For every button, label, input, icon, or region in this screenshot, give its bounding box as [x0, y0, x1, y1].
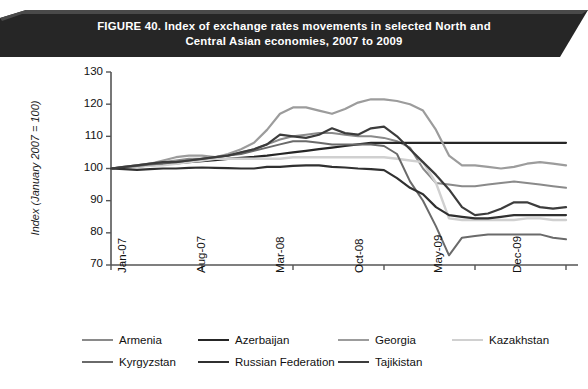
legend-item-azerbaijan[interactable]: Azerbaijan: [198, 330, 289, 350]
legend-swatch-icon: [338, 339, 369, 341]
legend-label: Kyrgyzstan: [119, 356, 176, 368]
series-line-armenia: [111, 133, 566, 188]
legend-item-kazakhstan[interactable]: Kazakhstan: [452, 330, 549, 350]
legend-row-1: ArmeniaAzerbaijanGeorgiaKazakhstan: [0, 330, 588, 350]
x-tick-label-oct-08: Oct-08: [353, 238, 365, 273]
legend-swatch-icon: [82, 339, 113, 341]
figure-title-banner: FIGURE 40. Index of exchange rates movem…: [0, 10, 588, 57]
legend-swatch-icon: [82, 361, 113, 363]
legend-label: Tajikistan: [375, 356, 422, 368]
legend-row-2: KyrgyzstanRussian FederationTajikistan: [0, 352, 588, 372]
legend-item-tajikistan[interactable]: Tajikistan: [338, 352, 422, 372]
series-lines: [111, 99, 566, 255]
x-tick-label-may-09: May-09: [432, 235, 444, 273]
y-tick-label-70: 70: [75, 257, 103, 269]
legend-label: Kazakhstan: [489, 334, 549, 346]
legend-swatch-icon: [452, 339, 483, 341]
legend-item-kyrgyzstan[interactable]: Kyrgyzstan: [82, 352, 176, 372]
y-tick-label-90: 90: [75, 193, 103, 205]
y-tick-label-80: 80: [75, 225, 103, 237]
y-axis-title: Index (January 2007 = 100): [29, 73, 41, 263]
legend-swatch-icon: [338, 361, 369, 363]
y-tick-label-120: 120: [75, 97, 103, 109]
y-tick-label-130: 130: [75, 65, 103, 77]
legend-swatch-icon: [198, 361, 229, 363]
chart-legend: ArmeniaAzerbaijanGeorgiaKazakhstan Kyrgy…: [0, 330, 588, 376]
x-tick-label-jan-07: Jan-07: [116, 238, 128, 273]
chart-plot-area: Index (January 2007 = 100) 130 120 110 1…: [0, 57, 588, 327]
figure-40-container: FIGURE 40. Index of exchange rates movem…: [0, 0, 588, 389]
legend-item-armenia[interactable]: Armenia: [82, 330, 162, 350]
banner-shape: [0, 10, 588, 57]
x-tick-label-mar-08: Mar-08: [274, 237, 286, 273]
legend-item-russian-federation[interactable]: Russian Federation: [198, 352, 335, 372]
legend-label: Armenia: [119, 334, 162, 346]
series-line-azerbaijan: [111, 143, 566, 169]
legend-item-georgia[interactable]: Georgia: [338, 330, 416, 350]
legend-label: Azerbaijan: [235, 334, 289, 346]
y-tick-label-110: 110: [75, 129, 103, 141]
legend-label: Georgia: [375, 334, 416, 346]
x-tick-label-aug-07: Aug-07: [195, 236, 207, 273]
legend-label: Russian Federation: [235, 356, 335, 368]
legend-swatch-icon: [198, 339, 229, 341]
y-tick-label-100: 100: [75, 161, 103, 173]
series-line-tajikistan: [111, 127, 566, 215]
x-tick-label-dec-09: Dec-09: [511, 236, 523, 273]
